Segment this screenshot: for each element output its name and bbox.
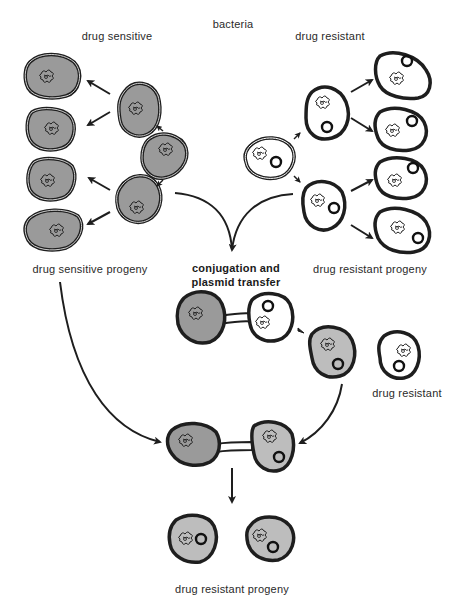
resistant-gen1-upper-cell (306, 87, 348, 139)
resistant-progeny-cell-3 (375, 158, 426, 199)
resistant-progeny-cell-1 (376, 53, 431, 99)
resistant-progeny-cell-2 (375, 108, 426, 150)
resistant-gen1-lower-cell (303, 182, 345, 230)
sensitive-gen1-upper-cell (119, 83, 160, 136)
conjugation-pair (177, 292, 292, 343)
label-drug-resistant-progeny-bottom: drug resistant progeny (175, 583, 289, 595)
second-conjugation-pair (168, 422, 294, 471)
label-drug-resistant: drug resistant (295, 30, 364, 42)
label-drug-sensitive: drug sensitive (82, 30, 153, 42)
bacterial-conjugation-diagram: bacteria drug sensitive drug resistant d… (0, 0, 466, 608)
resistant-donor-cell (379, 332, 419, 378)
sensitive-progeny-cell-4 (25, 210, 81, 250)
sensitive-progeny-cell-3 (28, 159, 75, 200)
resistant-parent-cell (245, 138, 294, 178)
bottom-progeny-cell-right (247, 517, 294, 560)
label-conjugation-line2: plasmid transfer (192, 275, 281, 289)
title-bacteria: bacteria (213, 18, 254, 30)
label-drug-sensitive-progeny: drug sensitive progeny (32, 263, 147, 275)
sensitive-gen1-lower-cell (117, 176, 161, 223)
label-conjugation-line1: conjugation and (192, 261, 281, 275)
diagram-canvas (0, 0, 466, 608)
sensitive-progeny-cell-1 (25, 55, 79, 98)
resistant-progeny-cell-4 (375, 208, 429, 252)
sensitive-progeny-cell-2 (27, 109, 74, 150)
label-drug-resistant-single: drug resistant (372, 387, 441, 399)
label-drug-resistant-progeny-top: drug resistant progeny (313, 263, 427, 275)
transfer-arrowhead (298, 328, 304, 333)
sensitive-parent-cell (142, 134, 187, 178)
label-conjugation: conjugation and plasmid transfer (192, 261, 281, 289)
transconjugant-cell (310, 327, 355, 377)
converge-arrows (175, 193, 293, 250)
bottom-progeny-cell-left (169, 515, 216, 562)
